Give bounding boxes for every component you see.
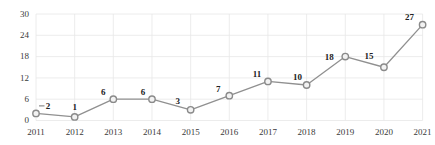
data-point-marker	[303, 82, 309, 88]
plot-area: 0612182430201120122013201420152016201720…	[0, 0, 435, 145]
x-axis-tick-label: 2019	[336, 127, 355, 137]
x-axis-tick-label: 2021	[414, 127, 432, 137]
x-axis-tick-label: 2014	[143, 127, 162, 137]
line-chart: 0612182430201120122013201420152016201720…	[0, 0, 435, 145]
y-axis-tick-label: 12	[20, 73, 29, 83]
data-point-marker	[187, 107, 193, 113]
data-point-label: 2	[46, 101, 51, 111]
data-point-marker	[71, 114, 77, 120]
data-point-marker	[381, 64, 387, 70]
y-axis-tick-label: 0	[25, 115, 30, 125]
data-point-label: 3	[175, 96, 180, 106]
data-point-marker	[342, 53, 348, 59]
data-point-label: 15	[364, 51, 374, 61]
y-axis-tick-label: 24	[20, 30, 30, 40]
x-axis-tick-label: 2013	[104, 127, 123, 137]
x-axis-tick-label: 2012	[66, 127, 84, 137]
data-point-marker	[149, 96, 155, 102]
x-axis-tick-label: 2015	[182, 127, 201, 137]
data-point-label: 1	[72, 102, 77, 112]
y-axis-tick-label: 6	[25, 94, 30, 104]
data-point-label: 27	[405, 12, 415, 22]
x-axis-tick-label: 2020	[375, 127, 394, 137]
x-axis-tick-label: 2018	[298, 127, 317, 137]
data-point-label: 7	[216, 84, 221, 94]
data-point-label: 11	[253, 69, 262, 79]
y-axis-tick-label: 30	[20, 9, 30, 19]
x-axis-tick-label: 2017	[259, 127, 278, 137]
y-axis-tick-label: 18	[20, 51, 30, 61]
data-point-label: 6	[101, 87, 106, 97]
data-point-marker	[265, 78, 271, 84]
data-point-label: 10	[293, 72, 303, 82]
data-point-marker	[33, 110, 39, 116]
x-axis-tick-label: 2011	[27, 127, 45, 137]
data-point-label: 18	[325, 52, 335, 62]
data-point-marker	[419, 21, 425, 27]
x-axis-tick-label: 2016	[220, 127, 239, 137]
data-point-marker	[110, 96, 116, 102]
data-point-marker	[226, 92, 232, 98]
data-point-label: 6	[141, 87, 146, 97]
